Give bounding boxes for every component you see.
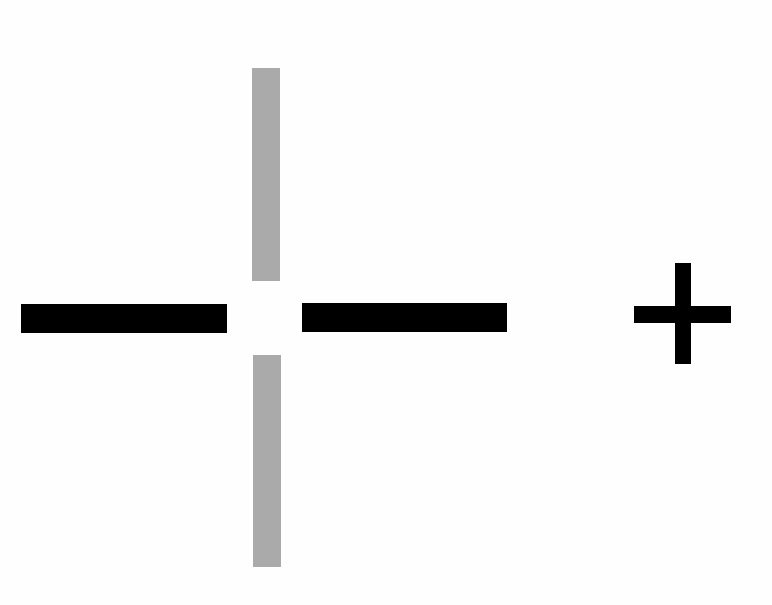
- left-horizontal-bar: [21, 304, 227, 333]
- top-vertical-bar: [252, 68, 280, 281]
- plus-horizontal-stroke: [634, 306, 731, 323]
- right-horizontal-bar: [302, 303, 507, 332]
- figure-canvas: [0, 0, 772, 605]
- bottom-vertical-bar: [253, 355, 281, 567]
